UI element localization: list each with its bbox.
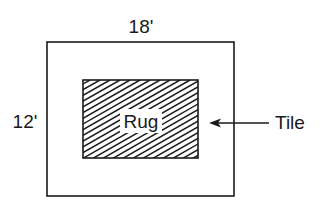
room-height-label: 12' [13, 111, 38, 132]
left-arrow-icon [209, 119, 269, 128]
rug-label: Rug [124, 111, 159, 132]
tile-label: Tile [275, 112, 305, 133]
room-width-label: 18' [129, 16, 154, 37]
floor-plan-diagram: 18' 12' Rug Tile [0, 0, 329, 206]
